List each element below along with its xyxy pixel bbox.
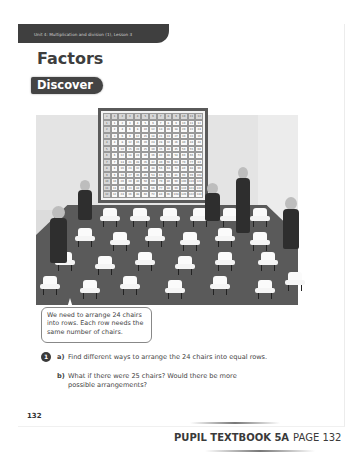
chair [180, 232, 200, 250]
chair [135, 252, 155, 270]
grid-cell: 36 [126, 191, 134, 198]
question-part-b: b)What if there were 25 chairs? Would th… [57, 372, 257, 390]
chair [285, 272, 305, 290]
chair [215, 228, 235, 246]
question-part-label: b) [57, 372, 68, 381]
grid-cell: 60 [141, 191, 149, 198]
multiplication-grid-poster: ×123456789101112112345678910111222468101… [98, 108, 208, 203]
chair [40, 276, 60, 294]
chair [210, 276, 230, 294]
chair [160, 208, 180, 226]
grid-cell: 12 [103, 191, 111, 198]
grid-cell: 144 [195, 191, 203, 198]
grid-cell: 132 [188, 191, 196, 198]
chair [258, 252, 278, 270]
question-part-label: a) [57, 353, 68, 362]
page-title: Factors [37, 49, 103, 68]
grid-cell: 24 [118, 191, 126, 198]
footer-caption: PUPIL TEXTBOOK 5APAGE 132 [174, 432, 341, 443]
unit-label: Unit 4: Multiplication and division (1),… [34, 32, 132, 37]
grid-cell: 48 [134, 191, 142, 198]
chair [165, 280, 185, 298]
section-tab-discover: Discover [31, 77, 103, 94]
chair [110, 232, 130, 250]
chair [255, 280, 275, 298]
chair [95, 256, 115, 274]
grid-cell: 120 [180, 191, 188, 198]
footer-divider [190, 422, 280, 424]
chair [250, 208, 270, 226]
chair [145, 228, 165, 246]
multiplication-grid: ×123456789101112112345678910111222468101… [101, 111, 205, 200]
grid-cell: 108 [172, 191, 180, 198]
question-number-badge: 1 [41, 352, 51, 362]
unit-banner: Unit 4: Multiplication and division (1),… [18, 24, 169, 43]
footer-book-title: PUPIL TEXTBOOK 5A [174, 432, 289, 443]
grid-cell: 84 [157, 191, 165, 198]
chair [80, 280, 100, 298]
speech-bubble: We need to arrange 24 chairs into rows. … [41, 307, 152, 343]
footer-page-label: PAGE 132 [293, 432, 341, 443]
chair [175, 256, 195, 274]
grid-cell: 12 [111, 191, 119, 198]
chair [215, 252, 235, 270]
question-part-a: a)Find different ways to arrange the 24 … [57, 353, 337, 362]
page-number: 132 [27, 412, 42, 420]
footer-divider [205, 450, 315, 452]
grid-cell: 72 [149, 191, 157, 198]
chair [250, 232, 270, 250]
question-part-text: Find different ways to arrange the 24 ch… [68, 353, 267, 362]
chair [100, 208, 120, 226]
grid-cell: 96 [165, 191, 173, 198]
question-part-text: What if there were 25 chairs? Would ther… [68, 372, 248, 390]
chair [130, 208, 150, 226]
chair [120, 276, 140, 294]
chair [75, 228, 95, 246]
